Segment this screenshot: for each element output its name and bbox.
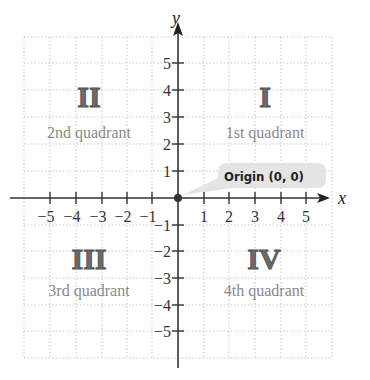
svg-text:4: 4 bbox=[277, 208, 285, 225]
quadrant-1-numeral: I bbox=[259, 80, 271, 113]
quadrant-1-label: 1st quadrant bbox=[226, 124, 305, 142]
svg-text:−5: −5 bbox=[154, 323, 171, 340]
svg-text:1: 1 bbox=[200, 208, 208, 225]
origin-label: Origin (0, 0) bbox=[224, 169, 304, 184]
svg-text:−3: −3 bbox=[89, 208, 106, 225]
svg-text:3: 3 bbox=[251, 208, 259, 225]
svg-text:−4: −4 bbox=[63, 208, 80, 225]
svg-text:−3: −3 bbox=[154, 270, 171, 287]
x-axis-label: x bbox=[337, 188, 346, 208]
svg-text:−4: −4 bbox=[154, 297, 171, 314]
svg-text:3: 3 bbox=[163, 109, 171, 126]
svg-text:−2: −2 bbox=[154, 243, 171, 260]
coordinate-plane: Origin (0, 0) x y −5 −4 −3 −2 −1 1 2 3 4… bbox=[0, 0, 370, 380]
y-axis-label: y bbox=[170, 8, 180, 28]
svg-text:4: 4 bbox=[163, 82, 171, 99]
x-axis bbox=[10, 193, 330, 203]
svg-text:2: 2 bbox=[163, 136, 171, 153]
svg-text:−5: −5 bbox=[37, 208, 54, 225]
quadrant-2-numeral: II bbox=[77, 80, 100, 113]
svg-text:−2: −2 bbox=[114, 208, 131, 225]
svg-text:5: 5 bbox=[163, 55, 171, 72]
x-tick-labels: −5 −4 −3 −2 −1 1 2 3 4 5 bbox=[37, 208, 310, 225]
origin-point bbox=[174, 194, 182, 202]
quadrant-4-numeral: IV bbox=[247, 242, 281, 275]
svg-text:−1: −1 bbox=[154, 217, 171, 234]
quadrant-3-numeral: III bbox=[71, 242, 106, 275]
quadrant-3-label: 3rd quadrant bbox=[48, 282, 130, 300]
svg-text:2: 2 bbox=[225, 208, 233, 225]
quadrant-2-label: 2nd quadrant bbox=[47, 124, 132, 142]
svg-text:1: 1 bbox=[163, 163, 171, 180]
svg-text:5: 5 bbox=[302, 208, 310, 225]
quadrant-4-label: 4th quadrant bbox=[224, 282, 305, 300]
